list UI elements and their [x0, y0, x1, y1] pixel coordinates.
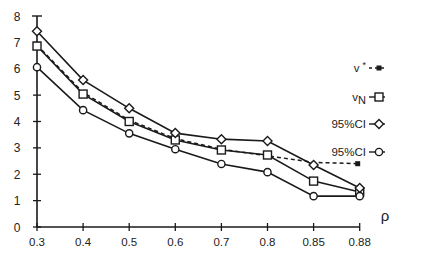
y-tick-label: 1: [14, 194, 21, 208]
series-1: [33, 42, 364, 196]
legend-marker-icon: [375, 93, 383, 101]
x-axis-label: ρ: [381, 207, 390, 224]
data-point-marker: [264, 169, 271, 176]
x-tick-label: 0.4: [75, 236, 92, 248]
legend-item-3: 95%CI: [331, 146, 385, 158]
y-tick-label: 4: [14, 115, 21, 129]
data-point-marker: [33, 64, 40, 71]
data-point-marker: [355, 161, 360, 166]
legend-label-main: v: [354, 62, 360, 74]
legend-label: v*: [354, 60, 367, 74]
data-point-marker: [309, 161, 318, 170]
legend-label-main: 95%CI: [331, 146, 366, 158]
legend-label-sub: N: [358, 94, 366, 106]
x-tick-label: 0.7: [213, 236, 229, 248]
x-tick-label: 0.85: [302, 236, 324, 248]
x-tick-label: 0.6: [167, 236, 183, 248]
data-point-marker: [310, 177, 318, 185]
legend-label-main: 95%CI: [331, 118, 366, 130]
x-tick-label: 0.5: [121, 236, 137, 248]
y-tick-label: 0: [14, 221, 21, 235]
data-point-marker: [356, 193, 363, 200]
legend-item-0: v*: [354, 60, 385, 74]
data-point-marker: [217, 146, 225, 154]
legend-marker-icon: [375, 120, 384, 129]
data-point-marker: [80, 107, 87, 114]
legend-label: 95%CI: [331, 146, 366, 158]
x-tick-label: 0.88: [349, 236, 371, 248]
data-point-marker: [172, 146, 179, 153]
y-tick-label: 3: [14, 141, 21, 155]
legend-item-1: vN: [352, 91, 385, 106]
data-point-marker: [218, 160, 225, 167]
x-tick-label: 0.3: [29, 236, 45, 248]
y-tick-label: 7: [14, 36, 21, 50]
x-tick-label: 0.8: [260, 236, 276, 248]
series-0: [37, 45, 360, 166]
y-tick-label: 5: [14, 89, 21, 103]
data-point-marker: [264, 151, 272, 159]
legend: v*vN95%CI95%CI: [331, 60, 385, 158]
series-line: [37, 45, 360, 164]
legend-item-2: 95%CI: [331, 118, 385, 130]
legend-label-sup: *: [362, 60, 366, 70]
series-group: [33, 27, 365, 200]
legend-label: 95%CI: [331, 118, 366, 130]
y-tick-label: 2: [14, 168, 21, 182]
legend-marker-icon: [375, 148, 382, 155]
y-tick-label: 6: [14, 62, 21, 76]
legend-label: vN: [352, 91, 366, 106]
data-point-marker: [33, 42, 41, 50]
legend-marker-icon: [377, 66, 382, 71]
y-tick-label: 8: [14, 10, 21, 24]
data-point-marker: [126, 130, 133, 137]
data-point-marker: [125, 104, 134, 113]
data-point-marker: [217, 135, 226, 144]
series-line: [37, 46, 360, 192]
data-point-marker: [310, 193, 317, 200]
data-point-marker: [125, 118, 133, 126]
line-chart: 0123456780.30.40.50.60.70.80.850.88ρ v*v…: [0, 0, 426, 262]
data-point-marker: [79, 90, 87, 98]
data-point-marker: [263, 137, 272, 146]
